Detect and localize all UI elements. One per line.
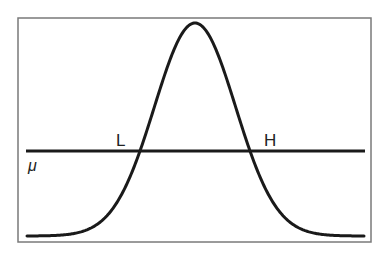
diagram-frame (18, 18, 371, 242)
label-high: H (264, 131, 276, 150)
label-mean: μ (27, 157, 37, 174)
bell-curve-diagram: L H μ (0, 0, 392, 256)
bell-curve (27, 23, 364, 236)
label-low: L (116, 131, 125, 150)
